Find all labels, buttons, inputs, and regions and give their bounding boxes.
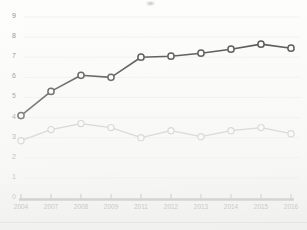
x-axis-tick-label: 2009	[97, 203, 125, 210]
data-point-marker	[78, 72, 84, 78]
series-line	[21, 44, 291, 115]
data-point-marker	[108, 125, 114, 131]
data-point-marker	[198, 50, 204, 56]
y-axis-tick-label: 4	[2, 113, 16, 120]
x-axis-tick-label: 2012	[157, 203, 185, 210]
data-point-marker	[108, 74, 114, 80]
y-axis-tick-label: 9	[2, 12, 16, 19]
x-axis-tick-label: 2016	[277, 203, 305, 210]
data-series-group	[18, 41, 294, 144]
data-point-marker	[258, 125, 264, 131]
x-axis-tick-label: 2004	[7, 203, 35, 210]
data-point-marker	[18, 138, 24, 144]
y-axis-tick-label: 5	[2, 92, 16, 99]
y-axis-tick-label: 6	[2, 72, 16, 79]
data-point-marker	[18, 112, 24, 118]
y-axis-tick-label: 1	[2, 173, 16, 180]
x-axis-tick-label: 2014	[217, 203, 245, 210]
data-point-marker	[168, 53, 174, 59]
y-axis-tick-label: 8	[2, 32, 16, 39]
data-point-marker	[198, 134, 204, 140]
chart-page: 0123456789 20042007200820092011201220132…	[0, 0, 307, 230]
gridlines-group	[24, 17, 300, 178]
data-point-marker	[258, 41, 264, 47]
data-point-marker	[48, 127, 54, 133]
axis-group	[19, 194, 294, 200]
data-point-marker	[48, 88, 54, 94]
scan-artifact	[146, 1, 155, 6]
y-axis-tick-label: 0	[2, 193, 16, 200]
page-bottom-rule	[0, 222, 307, 223]
data-point-marker	[78, 120, 84, 126]
data-point-marker	[138, 54, 144, 60]
data-point-marker	[228, 128, 234, 134]
data-point-marker	[168, 128, 174, 134]
y-axis-tick-label: 7	[2, 52, 16, 59]
line-chart-plot	[0, 0, 307, 230]
data-point-marker	[288, 131, 294, 137]
data-point-marker	[138, 135, 144, 141]
data-point-marker	[228, 46, 234, 52]
x-axis-tick-label: 2011	[127, 203, 155, 210]
y-axis-tick-label: 3	[2, 133, 16, 140]
data-point-marker	[288, 45, 294, 51]
x-axis-tick-label: 2015	[247, 203, 275, 210]
x-axis-tick-label: 2008	[67, 203, 95, 210]
x-axis-tick-label: 2007	[37, 203, 65, 210]
y-axis-tick-label: 2	[2, 153, 16, 160]
x-axis-tick-label: 2013	[187, 203, 215, 210]
